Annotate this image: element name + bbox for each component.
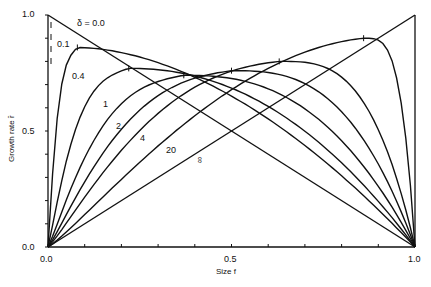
label-delta-1: 1 xyxy=(103,99,108,109)
label-delta-inf: ∞ xyxy=(195,157,205,163)
x-axis-title: Size f xyxy=(216,267,236,276)
curve-2 xyxy=(48,68,415,247)
y-axis-title: Growth rate r̂ xyxy=(7,115,16,162)
label-delta-4: 4 xyxy=(140,133,145,143)
label-delta-0: δ = 0.0 xyxy=(77,18,105,28)
label-delta-01: 0.1 xyxy=(57,39,70,49)
label-delta-04: 0.4 xyxy=(72,71,85,81)
y-tick-0: 0.0 xyxy=(22,242,35,252)
x-tick-0: 0.0 xyxy=(40,254,53,264)
label-delta-2: 2 xyxy=(116,121,121,131)
curve-1 xyxy=(48,48,415,248)
x-tick-05: 0.5 xyxy=(224,254,237,264)
label-delta-20: 20 xyxy=(166,145,176,155)
y-tick-05: 0.5 xyxy=(22,126,35,136)
y-tick-1: 1.0 xyxy=(22,9,35,19)
x-tick-1: 1.0 xyxy=(408,254,421,264)
